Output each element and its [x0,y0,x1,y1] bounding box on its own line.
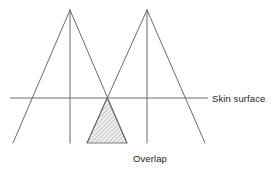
skin-surface-label: Skin surface [212,93,265,104]
figure-canvas: Skin surface Overlap [0,0,279,174]
overlap-label: Overlap [133,153,167,164]
beam-right-edge-outer-line [147,10,205,143]
overlap-region [87,98,127,143]
beam-left-edge-outer-line [13,10,70,143]
beam-overlap-diagram: Skin surface Overlap [0,0,279,174]
